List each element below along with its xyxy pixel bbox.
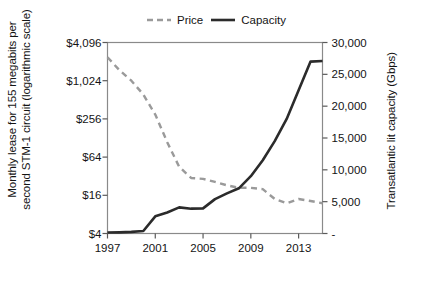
chart-figure: Monthly lease for 155 megabits per secon…	[0, 0, 425, 287]
series-line-price	[108, 57, 323, 203]
data-series	[108, 57, 323, 232]
y-axis-tick-label-right: 5,000	[332, 196, 412, 208]
y-axis-tick-label-right: 25,000	[332, 68, 412, 80]
x-axis-tick-label: 2009	[226, 242, 276, 254]
y-axis-tick-label-left: $64	[30, 151, 102, 163]
axis-ticks	[103, 43, 328, 239]
legend-item-price: Price	[146, 14, 203, 26]
chart-legend: Price Capacity	[146, 12, 286, 28]
y-axis-tick-label-right: 15,000	[332, 132, 412, 144]
x-axis-tick-label: 2001	[130, 242, 180, 254]
y-axis-tick-label-right: 20,000	[332, 100, 412, 112]
y-axis-tick-label-left: $16	[30, 189, 102, 201]
plot-frame	[108, 43, 323, 234]
legend-swatch-capacity-solid	[210, 15, 236, 25]
x-axis-tick-label: 2005	[178, 242, 228, 254]
y-axis-tick-label-left: $256	[30, 113, 102, 125]
y-axis-tick-label-right: 30,000	[332, 37, 412, 49]
legend-label-price: Price	[177, 14, 203, 26]
y-axis-tick-label-left: $1,024	[30, 75, 102, 87]
x-axis-tick-label: 1997	[83, 242, 133, 254]
left-axis-title: Monthly lease for 155 megabits per secon…	[6, 5, 33, 215]
y-axis-tick-label-right: 10,000	[332, 164, 412, 176]
y-axis-tick-label-left: $4,096	[30, 37, 102, 49]
legend-label-capacity: Capacity	[241, 14, 286, 26]
series-line-capacity	[108, 61, 323, 233]
y-axis-tick-label-left: $4	[30, 228, 102, 240]
plot-border	[108, 43, 323, 234]
legend-item-capacity: Capacity	[210, 14, 286, 26]
x-axis-tick-label: 2013	[274, 242, 324, 254]
legend-swatch-price-dashed	[146, 15, 172, 25]
y-axis-tick-label-right: -	[332, 228, 412, 240]
